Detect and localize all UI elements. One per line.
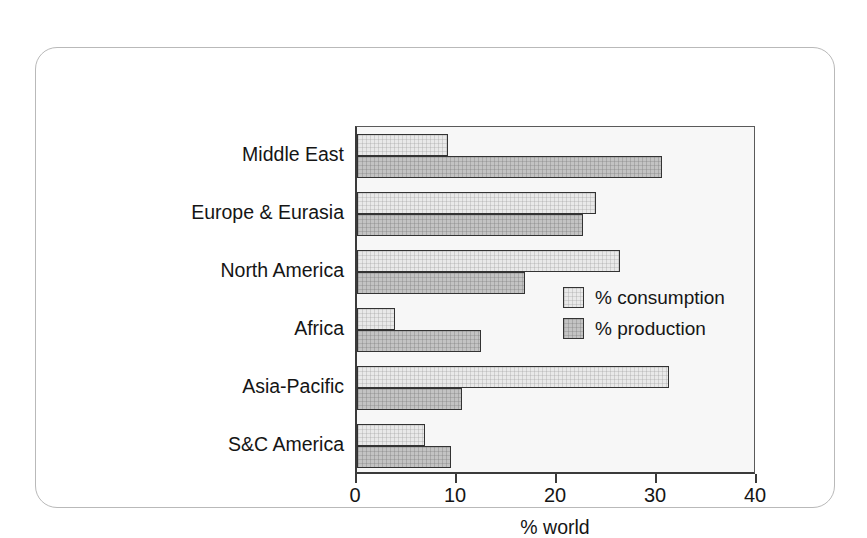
x-axis-tick: [355, 474, 357, 483]
category-label: S&C America: [228, 435, 344, 455]
legend-item: % consumption: [563, 282, 738, 313]
category-axis-labels: Middle EastEurope & EurasiaNorth America…: [36, 126, 344, 474]
bar: [357, 272, 525, 294]
category-label: Asia-Pacific: [242, 377, 344, 397]
legend-label: % production: [595, 318, 706, 340]
x-axis-tick: [755, 474, 757, 483]
bar: [357, 330, 481, 352]
legend-swatch-production: [563, 318, 584, 339]
legend-label: % consumption: [595, 287, 725, 309]
bar: [357, 250, 620, 272]
x-axis-title: % world: [355, 516, 755, 538]
bar: [357, 424, 425, 446]
category-label: Middle East: [242, 145, 344, 165]
x-axis-tick: [655, 474, 657, 483]
x-axis-tick: [455, 474, 457, 483]
bar: [357, 192, 596, 214]
chart-legend: % consumption% production: [563, 282, 738, 344]
category-label: Europe & Eurasia: [191, 203, 344, 223]
bar: [357, 366, 669, 388]
x-axis-tick: [555, 474, 557, 483]
legend-item: % production: [563, 313, 738, 344]
legend-swatch-consumption: [563, 287, 584, 308]
category-label: Africa: [294, 319, 344, 339]
x-axis-tick-label: 10: [444, 485, 466, 505]
bar: [357, 308, 395, 330]
bar: [357, 446, 451, 468]
figure-frame: Middle EastEurope & EurasiaNorth America…: [35, 47, 835, 508]
bar: [357, 214, 583, 236]
bar: [357, 134, 448, 156]
x-axis-tick-label: 20: [544, 485, 566, 505]
bar: [357, 388, 462, 410]
x-axis-tick-label: 30: [644, 485, 666, 505]
category-label: North America: [220, 261, 344, 281]
bar: [357, 156, 662, 178]
x-axis-tick-label: 0: [349, 485, 360, 505]
x-axis-tick-label: 40: [744, 485, 766, 505]
